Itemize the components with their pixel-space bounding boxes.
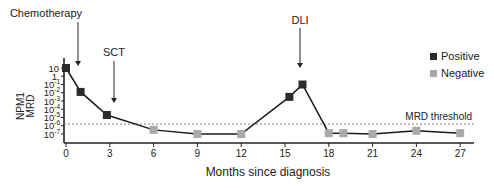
arrow-down-icon xyxy=(111,98,117,103)
x-tick-label: 27 xyxy=(455,148,467,159)
x-tick-label: 21 xyxy=(367,148,379,159)
y-tick-label: 10-7 xyxy=(44,128,61,140)
x-tick-label: 12 xyxy=(236,148,248,159)
legend-label: Negative xyxy=(441,67,484,79)
data-point-negative xyxy=(325,129,333,137)
x-tick-label: 15 xyxy=(279,148,291,159)
annotation-label: SCT xyxy=(103,46,125,58)
legend: PositiveNegative xyxy=(430,50,484,79)
data-point-negative xyxy=(150,126,158,134)
x-tick-label: 0 xyxy=(63,148,69,159)
x-axis-label: Months since diagnosis xyxy=(206,165,331,179)
arrow-down-icon xyxy=(297,63,303,68)
y-axis-label-line: MRD xyxy=(25,95,36,118)
legend-swatch xyxy=(430,70,437,77)
data-point-negative xyxy=(237,130,245,138)
data-point-negative xyxy=(339,129,347,137)
mrd-chart: ChemotherapySCTDLI 10110-110-210-310-410… xyxy=(0,0,494,188)
annotation-label: DLI xyxy=(291,14,308,26)
x-tick-label: 3 xyxy=(107,148,113,159)
data-point-positive xyxy=(62,64,70,72)
data-point-negative xyxy=(193,130,201,138)
data-point-negative xyxy=(369,130,377,138)
data-point-positive xyxy=(77,88,85,96)
data-point-negative xyxy=(456,129,464,137)
x-axis: 0369121518212427 xyxy=(63,143,474,159)
x-tick-label: 18 xyxy=(323,148,335,159)
legend-label: Positive xyxy=(441,50,480,62)
y-axis-label: NPM1MRD xyxy=(15,92,36,120)
legend-swatch xyxy=(430,53,437,60)
data-point-positive xyxy=(103,111,111,119)
y-axis: 10110-110-210-310-410-510-610-7 xyxy=(44,58,64,143)
x-tick-label: 9 xyxy=(195,148,201,159)
mrd-series xyxy=(62,64,464,138)
data-point-negative xyxy=(412,127,420,135)
arrow-down-icon xyxy=(75,61,81,66)
threshold-label: MRD threshold xyxy=(405,111,472,122)
annotation-label: Chemotherapy xyxy=(10,7,83,19)
data-point-positive xyxy=(299,81,307,89)
x-tick-label: 6 xyxy=(151,148,157,159)
x-tick-label: 24 xyxy=(411,148,423,159)
data-point-positive xyxy=(285,93,293,101)
